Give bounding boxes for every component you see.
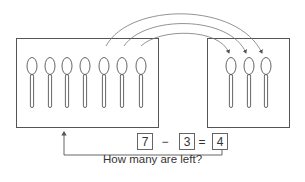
svg-text:7: 7	[142, 135, 149, 149]
move-arrows	[106, 14, 262, 53]
svg-text:3: 3	[184, 135, 191, 149]
svg-text:=: =	[198, 135, 205, 149]
svg-text:4: 4	[217, 135, 224, 149]
caption: How many are left?	[0, 153, 305, 165]
equation: 7 − 3 = 4	[138, 134, 228, 150]
left-box	[17, 39, 159, 128]
left-spoons	[27, 58, 146, 108]
right-spoons	[226, 58, 271, 108]
svg-text:−: −	[161, 135, 168, 149]
